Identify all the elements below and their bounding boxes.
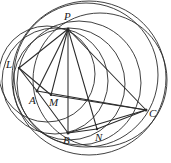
segment-NC	[97, 110, 146, 129]
point-label-M: M	[49, 97, 58, 108]
segment-BC	[68, 110, 146, 133]
point-label-L: L	[6, 59, 12, 70]
vertex-dot-C	[145, 109, 148, 112]
geometry-figure: P L A M B N C	[0, 0, 171, 163]
circle-through-P-N-C	[33, 13, 167, 147]
geometry-canvas	[0, 0, 171, 163]
circle-through-A-B-C	[14, 3, 158, 147]
segment-LA	[19, 68, 37, 91]
segment-PM	[51, 29, 68, 95]
segment-PA	[37, 29, 68, 91]
vertex-dot-N	[96, 128, 98, 130]
point-label-N: N	[95, 132, 102, 143]
circles-group	[0, 1, 167, 155]
vertex-dot-P	[67, 28, 70, 31]
segments-group	[19, 29, 146, 133]
segment-MC	[51, 95, 146, 110]
vertex-dot-L	[18, 67, 20, 69]
point-label-P: P	[64, 11, 71, 22]
point-label-A: A	[29, 95, 36, 106]
point-label-B: B	[63, 135, 70, 146]
point-label-C: C	[149, 108, 156, 119]
vertex-dot-A	[36, 90, 39, 93]
